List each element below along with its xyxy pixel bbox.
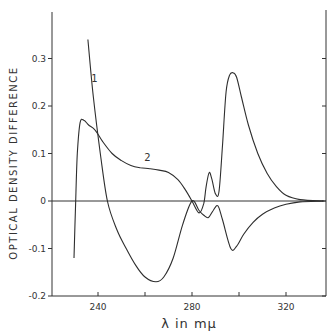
axes bbox=[52, 10, 326, 296]
x-tick-label: 280 bbox=[183, 302, 200, 312]
x-axis-title: λ in mμ bbox=[161, 316, 217, 331]
y-tick-label: 0.2 bbox=[32, 101, 46, 111]
curve-label-2: 2 bbox=[144, 152, 150, 163]
curve-1 bbox=[88, 40, 324, 282]
y-tick-label: 0 bbox=[40, 196, 46, 206]
y-tick-label: 0.1 bbox=[32, 149, 46, 159]
curves bbox=[74, 40, 324, 282]
y-tick-label: 0.3 bbox=[32, 54, 46, 64]
curve-2 bbox=[74, 73, 324, 258]
y-tick-label: -0.1 bbox=[28, 244, 46, 254]
x-tick-label: 320 bbox=[277, 302, 294, 312]
x-tick-label: 240 bbox=[89, 302, 106, 312]
curve-label-1: 1 bbox=[91, 73, 97, 84]
y-axis-title: OPTICAL DENSITY DIFFERENCE bbox=[8, 66, 19, 259]
ticks: -0.2-0.100.10.20.3240280320 bbox=[28, 54, 326, 313]
y-tick-label: -0.2 bbox=[28, 291, 46, 301]
spectrum-chart: -0.2-0.100.10.20.3240280320 12OPTICAL DE… bbox=[0, 0, 333, 336]
